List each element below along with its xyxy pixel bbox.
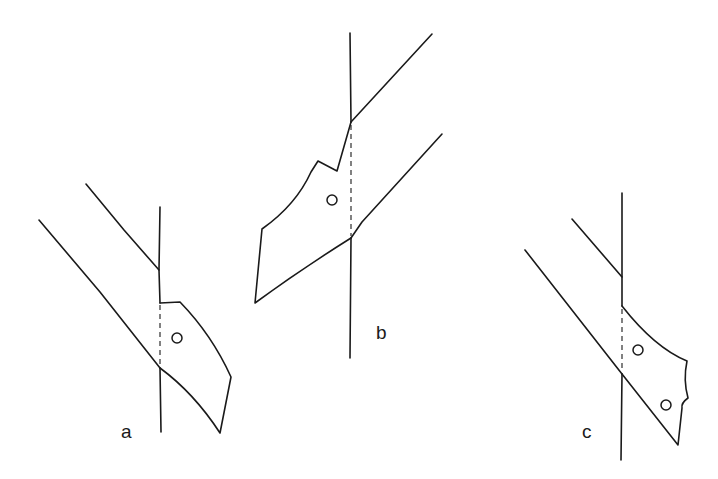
hole-c-lower <box>661 400 671 410</box>
lower-strip-edge-c <box>525 250 622 374</box>
hole-b <box>327 195 337 205</box>
lower-strip-edge-b <box>351 134 442 238</box>
displaced-fragment-b <box>255 122 351 303</box>
panel-a: a <box>39 184 231 442</box>
upper-strip-edge-a <box>86 184 159 270</box>
displaced-fragment-a <box>160 302 231 433</box>
hole-c-upper <box>633 345 643 355</box>
diagram-canvas: a b c <box>0 0 718 479</box>
panel-b: b <box>255 33 442 358</box>
upper-strip-edge-c <box>572 219 622 277</box>
upper-strip-edge-b <box>351 34 432 122</box>
hole-a <box>172 333 182 343</box>
label-b: b <box>376 322 387 343</box>
lower-strip-edge-a <box>39 220 160 368</box>
panel-c: c <box>525 193 688 460</box>
label-a: a <box>121 421 132 442</box>
label-c: c <box>582 421 592 442</box>
displaced-fragment-c <box>622 306 688 445</box>
vertical-line-b <box>350 33 351 358</box>
vertical-line-c <box>621 193 622 460</box>
vertical-line-a <box>159 207 161 432</box>
